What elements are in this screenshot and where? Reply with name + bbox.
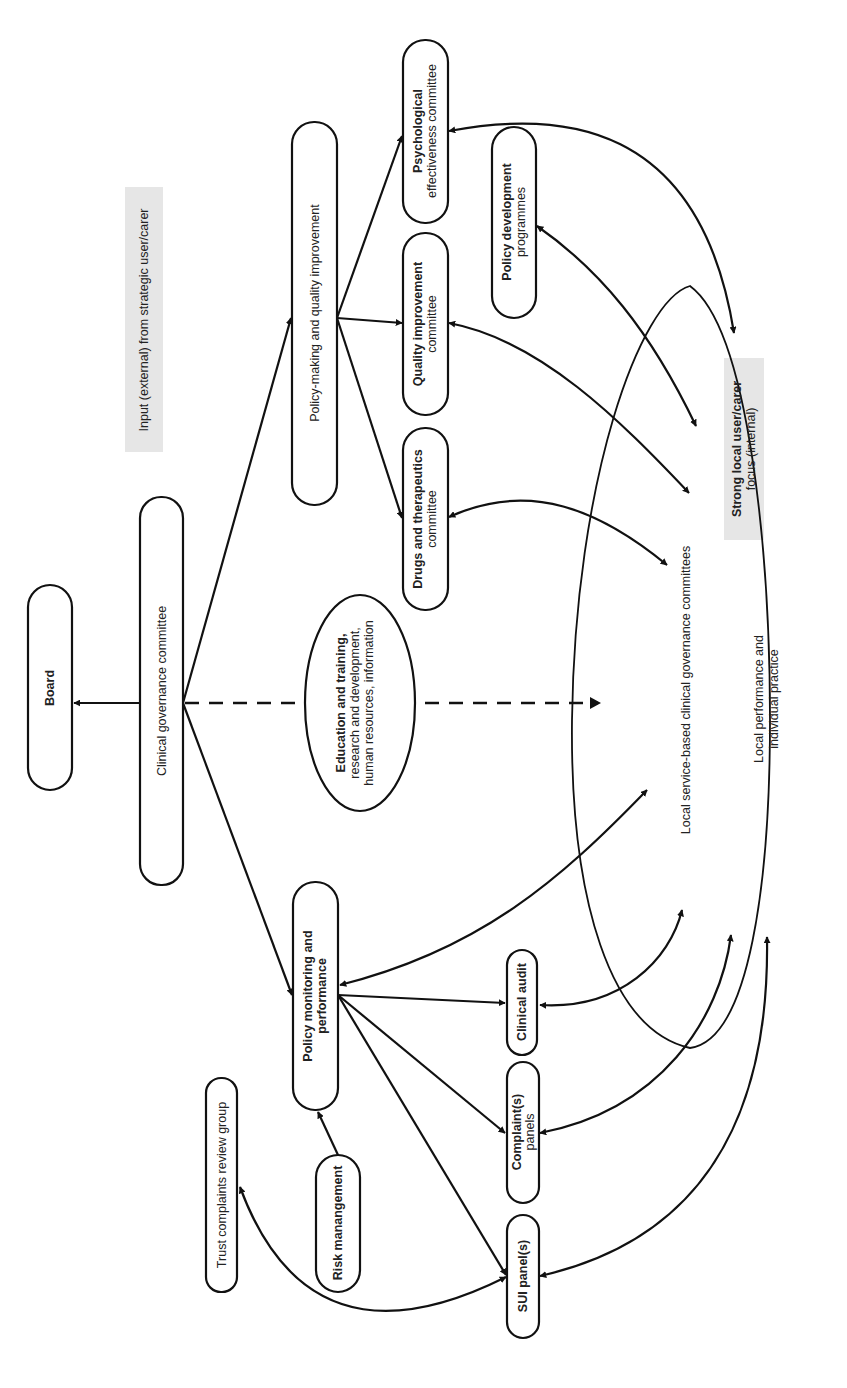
label-quality-1: Quality improvement: [411, 261, 425, 386]
annotation-strong-local-2: focus (internal): [744, 408, 758, 491]
edge-risk-to-pmon: [318, 1112, 338, 1155]
edge-pmon-local: [340, 790, 647, 985]
edge-cgc-to-policy-making: [183, 318, 291, 703]
edge-pmon-to-audit: [338, 995, 505, 1003]
label-policy-monitoring-1: Policy monitoring and: [301, 930, 315, 1061]
label-drugs-2: committee: [425, 490, 439, 548]
label-education-3: human resources, information: [362, 620, 376, 785]
label-education-1: Education and training,: [334, 634, 348, 773]
label-policy-monitoring-2: performance: [315, 958, 329, 1034]
edge-pm-to-psych: [337, 136, 402, 318]
label-policy-dev-1: Policy development: [500, 162, 514, 280]
edge-poldev-local: [537, 226, 696, 426]
annotation-local-service: Local service-based clinical governance …: [679, 546, 693, 834]
label-psych-1: Psychological: [411, 89, 425, 173]
label-policy-dev-2: programmes: [514, 187, 528, 257]
annotation-local-performance-2: individual practice: [767, 649, 781, 748]
label-drugs-1: Drugs and therapeutics: [411, 449, 425, 589]
edge-drugs-local: [449, 501, 667, 565]
label-sui: SUI panel(s): [516, 1240, 530, 1312]
label-board: Board: [43, 670, 57, 706]
edge-pm-to-drugs: [337, 318, 402, 518]
label-psych-2: effectiveness committee: [425, 64, 439, 198]
label-policy-making: Policy-making and quality improvement: [308, 204, 322, 422]
dashed-arrowhead: [590, 697, 601, 709]
label-clinical-governance: Clinical governance committee: [155, 606, 169, 776]
label-quality-2: committee: [425, 295, 439, 353]
edge-pmon-to-complaints: [338, 995, 505, 1133]
annotation-input-external: Input (external) from strategic user/car…: [137, 209, 151, 432]
label-complaints-2: panels: [523, 1114, 537, 1151]
annotation-strong-local-1: Strong local user/carer: [730, 381, 744, 517]
edge-pmon-to-sui: [338, 995, 506, 1275]
edge-cgc-to-policy-monitoring: [183, 703, 292, 995]
edge-sui-local-perf: [540, 937, 767, 1276]
annotation-local-performance-1: Local performance and: [752, 635, 766, 763]
label-risk: Risk manangement: [331, 1165, 345, 1280]
label-education-2: research and development,: [348, 627, 362, 778]
label-clinical-audit: Clinical audit: [515, 962, 529, 1041]
label-trust-complaints: Trust complaints review group: [215, 1102, 229, 1268]
edge-audit-local: [540, 910, 682, 1005]
edge-sui-trust: [240, 1187, 506, 1311]
governance-diagram: Board Clinical governance committee Poli…: [0, 0, 847, 1388]
edge-pm-to-quality: [337, 318, 402, 323]
edge-complaints-local-perf: [540, 935, 731, 1133]
label-complaints-1: Complaint(s): [510, 1094, 524, 1170]
